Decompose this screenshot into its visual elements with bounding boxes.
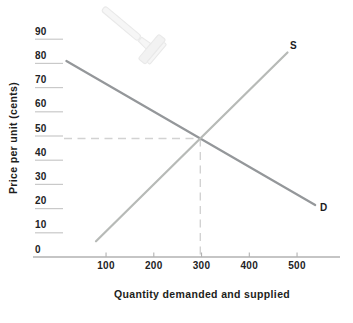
y-tick-label: 70: [35, 74, 47, 85]
x-tick-label: 400: [241, 260, 259, 271]
x-tick-label: 300: [193, 260, 211, 271]
y-tick-label: 50: [35, 123, 47, 134]
razor-handle: [101, 6, 141, 41]
supply-curve-label: S: [290, 40, 297, 51]
y-tick-label: 0: [35, 244, 41, 255]
y-tick-label: 40: [35, 147, 47, 158]
x-tick-label: 100: [97, 260, 115, 271]
supply-demand-chart: 0102030405060708090100200300400500 Price…: [0, 0, 353, 323]
y-axis-title: Price per unit (cents): [7, 82, 19, 194]
x-axis-title: Quantity demanded and supplied: [114, 288, 290, 300]
demand-curve: [66, 61, 315, 205]
demand-curve-label: D: [320, 202, 327, 213]
y-tick-label: 20: [35, 195, 47, 206]
x-tick-label: 200: [145, 260, 163, 271]
y-tick-label: 60: [35, 98, 47, 109]
y-tick-label: 10: [35, 219, 47, 230]
chart-canvas: 0102030405060708090100200300400500 Price…: [0, 0, 353, 323]
x-tick-label: 500: [288, 260, 306, 271]
y-tick-label: 30: [35, 171, 47, 182]
y-tick-label: 80: [35, 50, 47, 61]
y-tick-label: 90: [35, 26, 47, 37]
razor-icon: [93, 0, 168, 67]
supply-curve: [96, 53, 288, 242]
